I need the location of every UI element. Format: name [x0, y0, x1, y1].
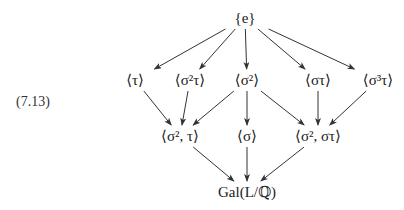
edge-e-to-tau: [155, 29, 226, 69]
edge-e-to-s2tau: [200, 29, 235, 69]
subgroup-lattice-diagram: (7.13) {e}⟨τ⟩⟨σ²τ⟩⟨σ²⟩⟨στ⟩⟨σ³τ⟩⟨σ², τ⟩⟨σ…: [0, 0, 404, 210]
lattice-node-tau: ⟨τ⟩: [126, 73, 144, 88]
edge-s2_tau-to-gal: [193, 147, 234, 181]
lattice-node-s2_tau: ⟨σ², τ⟩: [161, 129, 199, 144]
lattice-node-s2: ⟨σ²⟩: [235, 73, 259, 88]
lattice-node-s: ⟨σ⟩: [237, 129, 257, 144]
lattice-node-s3tau: ⟨σ³τ⟩: [363, 73, 393, 88]
edge-s2tau-to-s2_tau: [182, 91, 188, 125]
lattice-node-s2_stau: ⟨σ², στ⟩: [295, 129, 341, 144]
equation-number: (7.13): [16, 94, 50, 110]
edge-tau-to-s2_tau: [144, 91, 171, 125]
lattice-edges: [0, 0, 404, 210]
lattice-node-e: {e}: [234, 11, 255, 26]
edge-s2_stau-to-gal: [261, 147, 304, 181]
lattice-node-s2tau: ⟨σ²τ⟩: [175, 73, 205, 88]
lattice-node-stau: ⟨στ⟩: [305, 73, 331, 88]
edge-s3tau-to-s2_stau: [330, 91, 366, 125]
edge-s2-to-s2_tau: [193, 91, 234, 125]
lattice-node-gal: Gal(L/ℚ): [218, 185, 276, 200]
edge-s2-to-s2_stau: [261, 91, 304, 125]
edge-e-to-s2: [245, 29, 246, 69]
